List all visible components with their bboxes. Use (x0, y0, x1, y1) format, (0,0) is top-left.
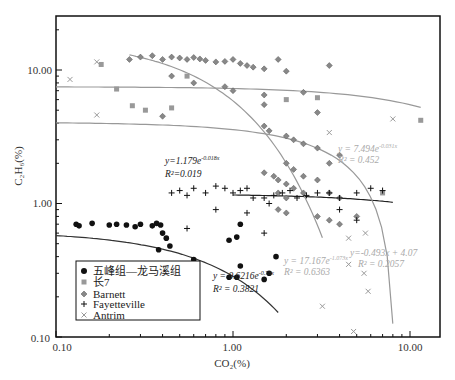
x-axis-label: CO₂(%) (214, 357, 250, 370)
legend-circle-icon (81, 268, 87, 274)
svg-text:R² = 0.452: R² = 0.452 (337, 155, 379, 165)
scatter-chart: 10.00 1.00 0.10 0.10 1.00 10.00 CO₂(%) C… (0, 0, 455, 380)
legend-square-icon (82, 280, 87, 285)
y-tick-10: 10.00 (27, 64, 52, 76)
y-axis-label: C₂H₆(%) (12, 146, 25, 186)
svg-text:R² = 0.6363: R² = 0.6363 (283, 267, 330, 277)
legend: 五峰组—龙马溪组 长7 Barnett Fayetteville Antrim (76, 261, 200, 321)
svg-text:R² = 0.2057: R² = 0.2057 (357, 259, 405, 269)
svg-text:R²=0.019: R²=0.019 (164, 169, 202, 179)
svg-text:y=-0.493x + 4.07: y=-0.493x + 4.07 (349, 248, 418, 258)
svg-text:R² = 0.3821: R² = 0.3821 (212, 284, 259, 294)
x-tick-10: 10.00 (398, 341, 423, 353)
y-tick-1: 1.00 (33, 197, 53, 209)
legend-antrim: Antrim (93, 309, 125, 321)
x-tick-1: 1.00 (222, 341, 242, 353)
x-tick-0.1: 0.10 (52, 341, 72, 353)
legend-chang7: 长7 (93, 276, 110, 288)
y-tick-0.1: 0.10 (31, 332, 51, 344)
